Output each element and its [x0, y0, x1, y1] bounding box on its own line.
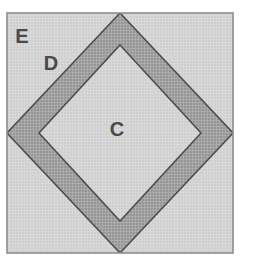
figure-root: C D E [0, 0, 254, 265]
quilt-block-diagram: C D E [0, 0, 254, 265]
